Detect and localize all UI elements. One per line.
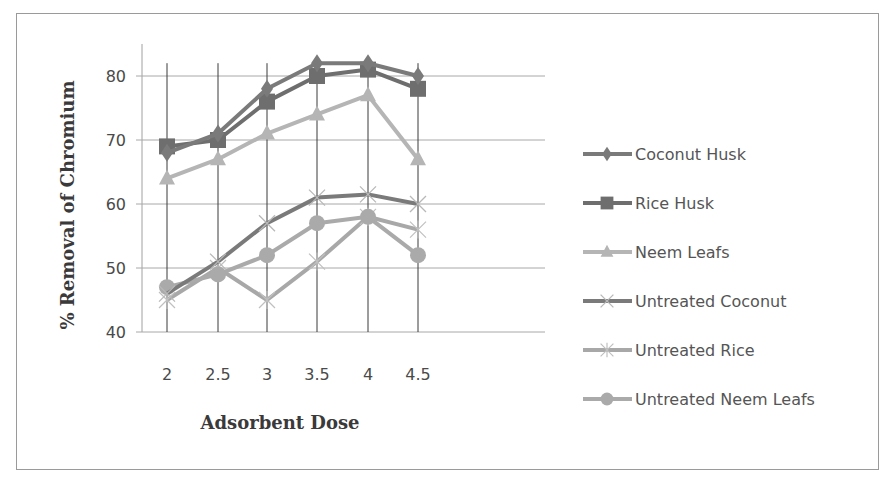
y-tick-label: 80 (106, 67, 126, 86)
x-tick-label: 4.5 (405, 365, 430, 384)
y-tick-label: 50 (106, 259, 126, 278)
series-untreated-rice (159, 208, 426, 309)
legend-label: Coconut Husk (635, 145, 747, 164)
legend-label: Untreated Rice (635, 341, 755, 360)
legend-item: Rice Husk (583, 194, 715, 213)
legend-label: Untreated Coconut (635, 292, 786, 311)
legend-label: Neem Leafs (635, 243, 730, 262)
legend-item: Untreated Coconut (583, 292, 786, 311)
line-chart: 4050607080 22.533.544.5 % Removal of Chr… (0, 0, 889, 487)
x-axis-label: Adsorbent Dose (199, 412, 359, 433)
x-axis-ticks: 22.533.544.5 (162, 365, 431, 384)
legend-item: Neem Leafs (583, 243, 730, 262)
legend: Coconut HuskRice HuskNeem LeafsUntreated… (583, 145, 815, 409)
x-tick-label: 2 (162, 365, 172, 384)
series-layer (159, 54, 426, 309)
series-coconut-husk (161, 54, 424, 162)
legend-item: Untreated Rice (583, 341, 755, 360)
y-tick-label: 40 (106, 323, 126, 342)
y-axis-label: % Removal of Chromium (57, 81, 78, 330)
legend-label: Rice Husk (635, 194, 715, 213)
x-tick-label: 4 (363, 365, 373, 384)
x-tick-label: 3.5 (304, 365, 329, 384)
x-tick-label: 3 (262, 365, 272, 384)
y-axis-ticks: 4050607080 (106, 67, 126, 342)
legend-item: Coconut Husk (583, 145, 747, 164)
y-tick-label: 60 (106, 195, 126, 214)
legend-item: Untreated Neem Leafs (583, 390, 815, 409)
legend-label: Untreated Neem Leafs (635, 390, 815, 409)
series-neem-leafs (159, 86, 426, 184)
x-tick-label: 2.5 (205, 365, 230, 384)
gridlines (136, 44, 545, 332)
y-tick-label: 70 (106, 131, 126, 150)
